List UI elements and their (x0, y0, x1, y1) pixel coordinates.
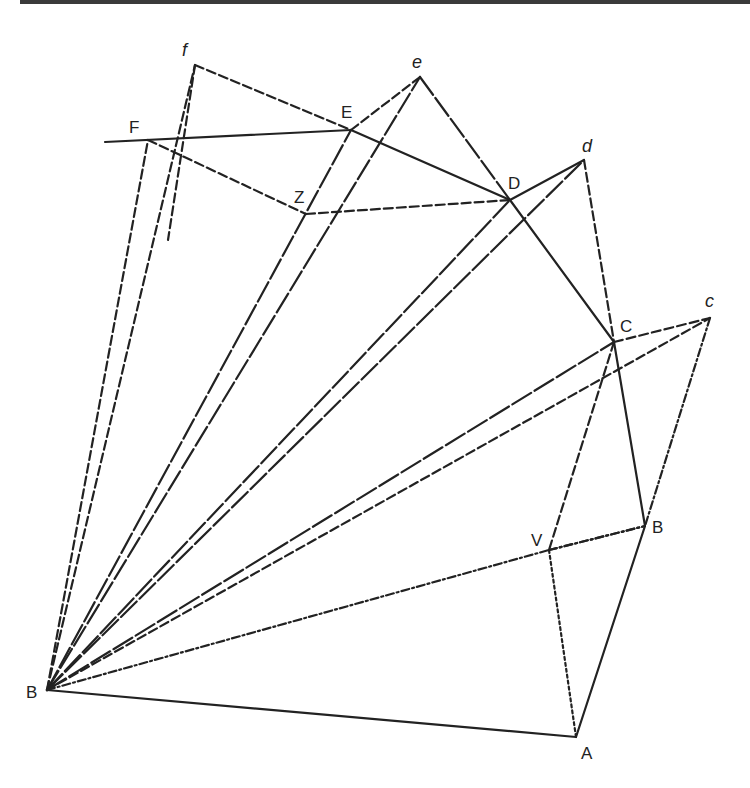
fan-B-V (47, 550, 549, 690)
label-B-apex: B (26, 683, 37, 702)
line-e-D (420, 77, 510, 200)
line-E-e (351, 77, 420, 130)
fan-B-d (47, 160, 584, 690)
line-Bapex-A (47, 690, 576, 737)
fan-B-C (47, 342, 614, 690)
line-f-E (195, 65, 351, 130)
label-D: D (508, 174, 520, 193)
line-D-C (510, 200, 614, 342)
label-e: e (412, 52, 422, 72)
label-V: V (531, 531, 543, 550)
geometric-diagram: f F e E Z D d C c B V A B (0, 0, 750, 788)
label-E: E (341, 103, 352, 122)
line-f-down (168, 65, 195, 240)
line-d-C (584, 160, 614, 342)
line-F-Z (148, 140, 306, 214)
label-F: F (129, 118, 139, 137)
label-Z: Z (294, 188, 304, 207)
label-C: C (620, 317, 632, 336)
line-E-D (351, 130, 510, 200)
fan-B-D (47, 200, 510, 690)
label-A: A (581, 744, 593, 763)
line-C-V (549, 342, 614, 550)
fan-V-B (549, 526, 645, 550)
label-c: c (705, 291, 714, 311)
line-B-A (576, 526, 645, 737)
label-f: f (182, 40, 189, 60)
line-V-A (549, 550, 576, 737)
label-d: d (582, 136, 593, 156)
line-Z-D (306, 200, 510, 214)
line-F-E (105, 130, 351, 142)
fan-B-f (47, 65, 195, 690)
fan-B-E (47, 130, 351, 690)
label-B-right: B (652, 518, 663, 537)
line-D-d (510, 160, 584, 200)
